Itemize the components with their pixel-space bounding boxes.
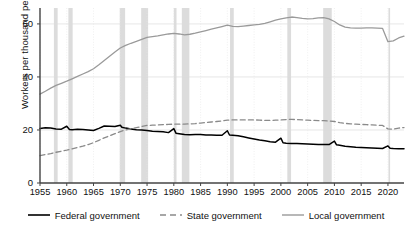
legend-label-state: State government bbox=[187, 210, 262, 221]
x-tick-label: 2020 bbox=[371, 187, 405, 197]
y-tick-label: 60 bbox=[11, 18, 33, 29]
axis-lines bbox=[40, 8, 404, 183]
chart-container: Workers per thousand people 0204060 1955… bbox=[0, 0, 412, 226]
series-line-federal-government bbox=[40, 125, 404, 149]
chart-legend: Federal government State government Loca… bbox=[0, 205, 412, 225]
gridlines bbox=[40, 8, 404, 183]
legend-swatch-state bbox=[160, 211, 182, 219]
series-line-local-government bbox=[40, 17, 404, 94]
recession-band bbox=[54, 8, 58, 183]
legend-item-state[interactable]: State government bbox=[160, 210, 262, 221]
recession-band bbox=[68, 8, 72, 183]
series-lines bbox=[40, 17, 404, 156]
legend-swatch-federal bbox=[28, 211, 50, 219]
legend-item-local[interactable]: Local government bbox=[282, 210, 385, 221]
recession-bands bbox=[54, 8, 390, 183]
recession-band bbox=[323, 8, 332, 183]
legend-item-federal[interactable]: Federal government bbox=[28, 210, 140, 221]
recession-band bbox=[388, 8, 390, 183]
axis-ticks bbox=[37, 24, 388, 186]
series-line-state-government bbox=[40, 119, 404, 155]
legend-swatch-local bbox=[282, 211, 304, 219]
y-tick-label: 40 bbox=[11, 71, 33, 82]
recession-band bbox=[287, 8, 291, 183]
y-tick-label: 20 bbox=[11, 124, 33, 135]
recession-band bbox=[230, 8, 234, 183]
legend-label-local: Local government bbox=[309, 210, 385, 221]
legend-label-federal: Federal government bbox=[55, 210, 140, 221]
